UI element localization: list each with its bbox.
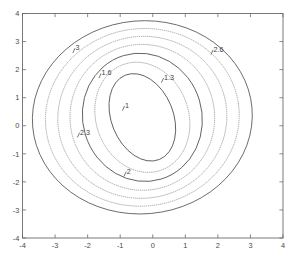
x-axis-tick-label: 2 bbox=[216, 241, 220, 250]
y-axis-tick-label: -4 bbox=[13, 234, 20, 243]
contour-level-1 bbox=[97, 64, 188, 171]
y-axis-tick-label: -3 bbox=[13, 206, 20, 215]
x-axis-tick-label: 3 bbox=[248, 241, 252, 250]
contour-lines-group bbox=[24, 12, 260, 224]
contour-plot-svg: -4-3-2-101234-4-3-2-101234 11.31.622.32.… bbox=[0, 0, 295, 259]
contour-label-2-6: 2.6 bbox=[214, 45, 224, 54]
contour-labels-group: 11.31.622.32.63 bbox=[73, 43, 224, 176]
x-axis-tick-label: -3 bbox=[52, 241, 59, 250]
y-axis-tick-label: -2 bbox=[13, 178, 20, 187]
y-axis-tick-label: 4 bbox=[15, 9, 19, 18]
contour-level-2-3 bbox=[44, 22, 241, 213]
contour-label-1: 1 bbox=[125, 101, 129, 110]
x-axis-tick-label: 1 bbox=[183, 241, 187, 250]
contour-label-2: 2 bbox=[127, 167, 131, 176]
contour-label-1-6: 1.6 bbox=[102, 68, 112, 77]
contour-level-2 bbox=[55, 29, 231, 206]
x-axis-tick-label: -4 bbox=[19, 241, 26, 250]
y-axis-tick-label: 1 bbox=[15, 93, 19, 102]
contour-label-1-3: 1.3 bbox=[164, 73, 174, 82]
contour-level-1-6 bbox=[66, 38, 218, 196]
y-axis-tick-label: 0 bbox=[15, 121, 19, 130]
y-axis-tick-label: 3 bbox=[15, 37, 19, 46]
y-axis-tick-label: 2 bbox=[15, 65, 19, 74]
page-caption bbox=[0, 250, 295, 259]
x-axis-tick-label: -1 bbox=[117, 241, 124, 250]
y-axis-tick-label: -1 bbox=[13, 150, 20, 159]
contour-level-3 bbox=[24, 12, 260, 224]
x-axis-tick-label: 4 bbox=[281, 241, 285, 250]
contour-level-1-3 bbox=[80, 49, 205, 186]
x-axis-tick-label: -2 bbox=[84, 241, 91, 250]
x-axis-tick-label: 0 bbox=[151, 241, 155, 250]
axis-frame bbox=[23, 14, 284, 239]
contour-label-2-3: 2.3 bbox=[80, 128, 90, 137]
contour-label-3: 3 bbox=[76, 43, 80, 52]
contour-figure: -4-3-2-101234-4-3-2-101234 11.31.622.32.… bbox=[0, 0, 295, 259]
